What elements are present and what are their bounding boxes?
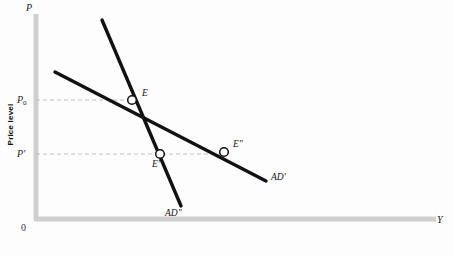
aggregate-demand-diagram: P Y 0 Price level P0 P' E E' E" AD' AD" <box>0 0 453 256</box>
curve-ad-prime <box>55 72 266 181</box>
origin-label: 0 <box>21 222 26 233</box>
tick-label-p0: P0 <box>17 94 27 107</box>
point-marker-e-double-prime <box>220 148 229 157</box>
point-label-e: E <box>142 88 148 98</box>
point-marker-e-prime <box>156 150 165 159</box>
diagram-canvas <box>0 0 453 256</box>
y-axis-symbol: P <box>26 2 32 13</box>
point-marker-e <box>128 96 137 105</box>
point-label-e-double-prime: E" <box>233 139 243 149</box>
y-axis-title: Price level <box>6 95 15 155</box>
curve-label-ad-prime: AD' <box>271 172 286 182</box>
x-axis-symbol: Y <box>437 214 443 225</box>
curve-label-ad-double-prime: AD" <box>165 208 182 218</box>
tick-label-p0-sub: 0 <box>23 99 27 107</box>
point-label-e-prime: E' <box>152 159 160 169</box>
tick-label-pprime: P' <box>17 148 25 159</box>
curve-ad-double-prime <box>102 20 181 206</box>
